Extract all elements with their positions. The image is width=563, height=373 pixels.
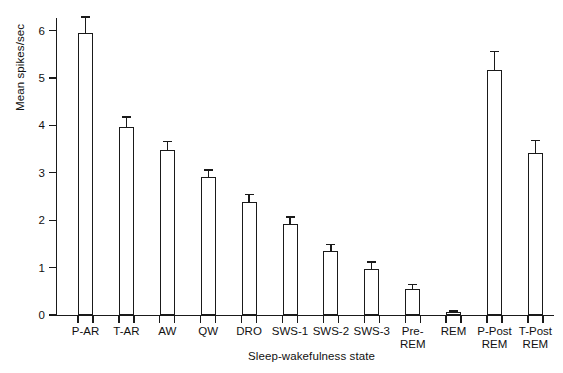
bar-dro bbox=[242, 202, 257, 315]
y-tick-label-1: 1 bbox=[30, 262, 45, 274]
x-axis-title: Sleep-wakefulness state bbox=[0, 350, 563, 362]
y-tick-label-3: 3 bbox=[30, 167, 45, 179]
error-bar-cap-sws-1 bbox=[286, 216, 295, 217]
bar-p-ar bbox=[78, 33, 93, 315]
error-bar-cap-rem bbox=[449, 310, 458, 311]
x-axis-line bbox=[56, 315, 554, 316]
x-tick-dro-left bbox=[241, 316, 242, 323]
y-tick-2 bbox=[49, 220, 56, 221]
error-bar-stem-t-post-rem bbox=[535, 140, 536, 153]
error-bar-stem-t-ar bbox=[126, 116, 127, 126]
x-tick-qw-right bbox=[215, 316, 216, 323]
y-axis-line bbox=[56, 18, 57, 316]
x-tick-rem-left bbox=[445, 316, 446, 323]
x-tick-sws-1-right bbox=[297, 316, 298, 323]
bar-aw bbox=[160, 150, 175, 315]
y-tick-label-2: 2 bbox=[30, 214, 45, 226]
y-tick-1 bbox=[49, 267, 56, 268]
x-axis-label-t-post-rem: T-Post REM bbox=[510, 325, 560, 351]
bar-sws-3 bbox=[364, 269, 379, 315]
bar-sws-1 bbox=[283, 224, 298, 315]
x-tick-qw-left bbox=[200, 316, 201, 323]
bar-sws-2 bbox=[323, 251, 338, 315]
error-bar-cap-qw bbox=[204, 169, 213, 170]
error-bar-stem-aw bbox=[167, 141, 168, 150]
x-tick-rem-right bbox=[460, 316, 461, 323]
y-axis-title: Mean spikes/sec bbox=[14, 0, 30, 111]
x-tick-p-post-rem-left bbox=[486, 316, 487, 323]
x-tick-aw-right bbox=[174, 316, 175, 323]
error-bar-cap-p-post-rem bbox=[490, 51, 499, 52]
y-tick-label-6: 6 bbox=[30, 25, 45, 37]
bar-p-post-rem bbox=[487, 70, 502, 315]
x-tick-t-ar-left bbox=[118, 316, 119, 323]
y-tick-label-5: 5 bbox=[30, 72, 45, 84]
x-tick-sws-2-left bbox=[323, 316, 324, 323]
error-bar-stem-p-ar bbox=[85, 16, 86, 33]
x-tick-sws-3-right bbox=[379, 316, 380, 323]
error-bar-cap-aw bbox=[163, 141, 172, 142]
bar-t-post-rem bbox=[528, 153, 543, 315]
x-tick-p-ar-right bbox=[92, 316, 93, 323]
y-tick-label-4: 4 bbox=[30, 119, 45, 131]
y-tick-5 bbox=[49, 77, 56, 78]
error-bar-cap-p-ar bbox=[81, 16, 90, 17]
x-tick-sws-1-left bbox=[282, 316, 283, 323]
bar-qw bbox=[201, 177, 216, 315]
x-tick-pre--rem-right bbox=[420, 316, 421, 323]
error-bar-cap-t-post-rem bbox=[531, 140, 540, 141]
error-bar-cap-sws-2 bbox=[326, 244, 335, 245]
error-bar-cap-dro bbox=[245, 194, 254, 195]
x-tick-t-ar-right bbox=[133, 316, 134, 323]
x-tick-p-post-rem-right bbox=[501, 316, 502, 323]
x-tick-dro-right bbox=[256, 316, 257, 323]
x-tick-pre--rem-left bbox=[405, 316, 406, 323]
x-tick-sws-3-left bbox=[364, 316, 365, 323]
y-tick-6 bbox=[49, 30, 56, 31]
x-tick-aw-left bbox=[159, 316, 160, 323]
x-tick-t-post-rem-left bbox=[527, 316, 528, 323]
x-tick-sws-2-right bbox=[338, 316, 339, 323]
error-bar-cap-pre--rem bbox=[408, 284, 417, 285]
error-bar-cap-t-ar bbox=[122, 116, 131, 117]
y-tick-3 bbox=[49, 172, 56, 173]
bar-pre--rem bbox=[405, 289, 420, 315]
y-tick-4 bbox=[49, 125, 56, 126]
x-tick-p-ar-left bbox=[77, 316, 78, 323]
y-tick-label-0: 0 bbox=[30, 309, 45, 321]
error-bar-stem-p-post-rem bbox=[494, 51, 495, 71]
y-tick-0 bbox=[49, 314, 56, 315]
error-bar-cap-sws-3 bbox=[367, 261, 376, 262]
bar-chart-figure: Mean spikes/sec 0123456 P-ART-ARAWQWDROS… bbox=[0, 0, 563, 373]
bar-t-ar bbox=[119, 127, 134, 315]
x-tick-t-post-rem-right bbox=[542, 316, 543, 323]
bar-rem bbox=[446, 312, 461, 315]
